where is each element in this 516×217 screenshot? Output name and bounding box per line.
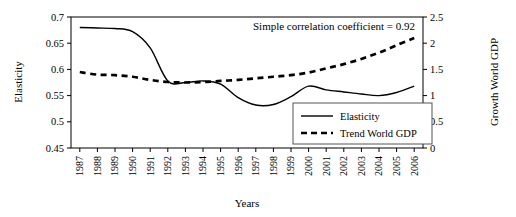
correlation-line-chart: 0.450.50.550.60.650.7 00.511.522.5 19871… <box>0 0 516 217</box>
right-tick-label: 2 <box>430 38 435 49</box>
chart-legend: Elasticity Trend World GDP <box>293 103 432 144</box>
x-tick-label-2001: 2001 <box>321 156 332 176</box>
x-tick-label-1988: 1988 <box>92 156 103 176</box>
left-tick-label: 0.55 <box>46 90 64 101</box>
chart-figure: 0.450.50.550.60.650.7 00.511.522.5 19871… <box>0 0 516 217</box>
correlation-annotation: Simple correlation coefficient = 0.92 <box>253 20 415 32</box>
x-tick-label-1993: 1993 <box>180 156 191 176</box>
x-tick-label-1989: 1989 <box>109 156 120 176</box>
left-tick-label: 0.5 <box>51 116 64 127</box>
x-tick-label-2002: 2002 <box>338 156 349 176</box>
legend-label-trend-world-gdp: Trend World GDP <box>340 128 417 139</box>
left-tick-label: 0.7 <box>51 12 64 23</box>
x-tick-label-1996: 1996 <box>233 156 244 176</box>
left-tick-label: 0.6 <box>51 64 64 75</box>
x-tick-label-1992: 1992 <box>162 156 173 176</box>
x-tick-label-1998: 1998 <box>268 156 279 176</box>
y-axis-title: Elasticity <box>12 61 24 103</box>
legend-label-elasticity: Elasticity <box>340 111 380 122</box>
right-tick-label: 1.5 <box>430 64 443 75</box>
x-tick-label-1990: 1990 <box>127 156 138 176</box>
x-tick-label-2000: 2000 <box>303 156 314 176</box>
x-tick-label-2004: 2004 <box>373 156 384 176</box>
x-tick-label-1994: 1994 <box>197 156 208 176</box>
right-tick-label: 2.5 <box>430 12 443 23</box>
left-tick-label: 0.65 <box>46 38 64 49</box>
x-axis-title: Years <box>235 197 260 209</box>
x-tick-label-2006: 2006 <box>409 156 420 176</box>
left-tick-label: 0.45 <box>46 143 64 154</box>
chart-background <box>0 0 516 217</box>
x-tick-label-1987: 1987 <box>74 156 85 176</box>
y2-axis-title: Growth World GDP <box>488 38 500 126</box>
x-tick-label-1991: 1991 <box>145 156 156 176</box>
x-tick-label-1999: 1999 <box>285 156 296 176</box>
x-tick-label-1997: 1997 <box>250 156 261 176</box>
right-tick-label: 1 <box>430 90 435 101</box>
x-tick-label-2005: 2005 <box>391 156 402 176</box>
x-tick-label-1995: 1995 <box>215 156 226 176</box>
x-tick-label-2003: 2003 <box>356 156 367 176</box>
